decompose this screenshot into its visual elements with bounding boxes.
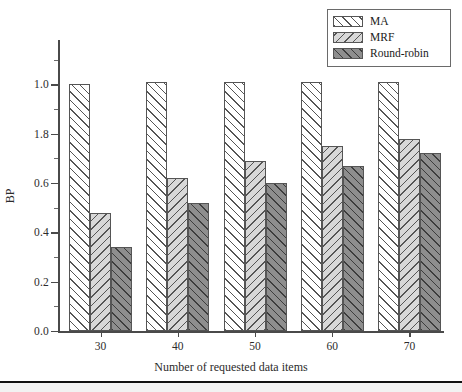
- y-axis-tick-label: 1.8: [34, 128, 49, 140]
- y-axis-major-tick: [51, 232, 58, 233]
- legend-label-ma: MA: [370, 16, 389, 28]
- bar-mrf-30: [90, 213, 111, 331]
- y-axis-minor-tick: [54, 257, 58, 258]
- y-axis-minor-tick: [54, 158, 58, 159]
- y-axis-tick-label: 0.6: [34, 177, 49, 189]
- x-axis-major-tick: [255, 331, 256, 337]
- y-axis-minor-tick: [54, 306, 58, 307]
- bar-ma-70: [378, 82, 399, 331]
- y-axis-major-tick: [51, 134, 58, 135]
- page-bottom-band: [0, 383, 462, 392]
- y-axis-tick-label: 1.0: [34, 78, 49, 90]
- x-axis-tick-label: 60: [326, 340, 338, 352]
- x-axis-major-tick: [332, 331, 333, 337]
- x-axis-title: Number of requested data items: [0, 360, 462, 375]
- legend-item-ma: MA: [333, 14, 445, 29]
- x-axis-tick-label: 70: [404, 340, 416, 352]
- bar-round-robin-40: [188, 203, 209, 331]
- y-axis-minor-tick: [54, 109, 58, 110]
- y-axis-tick-label: 0.4: [34, 226, 49, 238]
- bar-ma-60: [301, 82, 322, 331]
- bar-round-robin-70: [420, 153, 441, 331]
- bar-round-robin-60: [343, 166, 364, 331]
- y-axis-major-tick: [51, 331, 58, 332]
- bar-mrf-40: [167, 178, 188, 331]
- x-axis-line: [58, 331, 444, 333]
- legend-swatch-ma: [333, 16, 363, 27]
- y-axis-major-tick: [51, 183, 58, 184]
- y-axis-tick-label: 0.0: [34, 325, 49, 337]
- bar-mrf-50: [245, 161, 266, 331]
- bar-round-robin-50: [266, 183, 287, 331]
- x-axis-major-tick: [409, 331, 410, 337]
- bar-round-robin-30: [111, 247, 132, 331]
- x-axis-tick-label: 50: [249, 340, 261, 352]
- y-axis-minor-tick: [54, 60, 58, 61]
- bar-ma-30: [69, 84, 90, 331]
- bar-ma-50: [224, 82, 245, 331]
- x-axis-major-tick: [178, 331, 179, 337]
- plot-area: 0.00.20.40.61.81.0 3040506070: [58, 40, 444, 331]
- x-axis-major-tick: [101, 331, 102, 337]
- x-axis-tick-label: 30: [95, 340, 107, 352]
- bar-ma-40: [146, 82, 167, 331]
- bar-mrf-60: [322, 146, 343, 331]
- y-axis-major-tick: [51, 282, 58, 283]
- y-axis-major-tick: [51, 84, 58, 85]
- x-axis-tick-label: 40: [172, 340, 184, 352]
- y-axis-minor-tick: [54, 208, 58, 209]
- y-axis-title: BP: [3, 189, 18, 204]
- bar-mrf-70: [399, 139, 420, 331]
- bar-chart-figure: MA MRF Round-robin BP 0.00.20.40.61.81.0…: [0, 0, 462, 392]
- y-axis-line: [58, 40, 60, 331]
- y-axis-tick-label: 0.2: [34, 276, 49, 288]
